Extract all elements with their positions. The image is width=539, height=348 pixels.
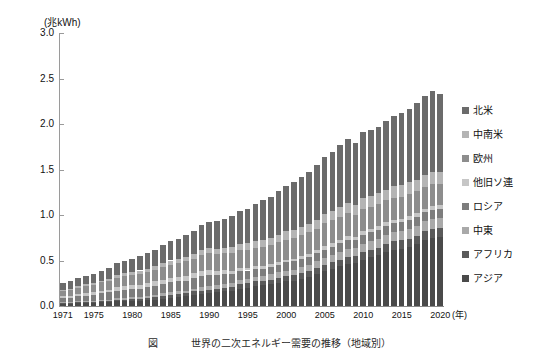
bar-segment-他旧ソ連 (299, 256, 305, 259)
y-tick-label: 2.5 (26, 74, 54, 84)
bar-segment-アジア (145, 300, 151, 306)
bar-segment-ロシア (283, 262, 289, 270)
bar-segment-他旧ソ連 (114, 287, 120, 291)
bar-segment-他旧ソ連 (222, 270, 228, 275)
bar-segment-中東 (253, 277, 259, 282)
legend-item-6[interactable]: アフリカ (462, 242, 538, 266)
bar-segment-他旧ソ連 (345, 236, 351, 240)
bar-segment-中南米 (206, 248, 212, 253)
legend-item-5[interactable]: 中東 (462, 218, 538, 242)
x-tick-label: 1990 (192, 310, 226, 320)
bar-segment-他旧ソ連 (168, 278, 174, 283)
bar-segment-中南米 (306, 224, 312, 232)
legend-label: アジア (473, 273, 503, 284)
bar-segment-欧州 (137, 274, 143, 285)
legend-swatch-icon (462, 179, 469, 186)
bar-segment-中南米 (399, 185, 405, 197)
bar-segment-他旧ソ連 (368, 229, 374, 233)
bar-segment-中南米 (330, 211, 336, 220)
x-axis-line (59, 306, 444, 307)
bar-segment-北米 (268, 197, 274, 238)
bar-segment-ロシア (222, 274, 228, 284)
bar-2005 (322, 33, 328, 306)
bar-segment-中南米 (168, 261, 174, 266)
x-tick-label: 2010 (346, 310, 380, 320)
legend-item-2[interactable]: 欧州 (462, 146, 538, 170)
bar-segment-北米 (306, 172, 312, 224)
bar-segment-アフリカ (253, 281, 259, 286)
bar-segment-中東 (306, 265, 312, 271)
bar-segment-アジア (60, 304, 66, 306)
bar-segment-中南米 (376, 193, 382, 204)
bar-segment-他旧ソ連 (83, 293, 89, 296)
bar-segment-ロシア (407, 220, 413, 229)
bar-segment-北米 (191, 231, 197, 254)
bar-segment-中東 (206, 286, 212, 290)
bar-segment-中南米 (337, 207, 343, 217)
bar-segment-中南米 (268, 238, 274, 245)
bar-segment-中南米 (99, 281, 105, 283)
bar-segment-他旧ソ連 (383, 222, 389, 226)
bar-segment-他旧ソ連 (360, 231, 366, 235)
bar-segment-アフリカ (283, 276, 289, 281)
bar-segment-アフリカ (299, 273, 305, 278)
bar-segment-アフリカ (145, 298, 151, 300)
legend-swatch-icon (462, 203, 469, 210)
bar-segment-他旧ソ連 (145, 283, 151, 287)
bar-segment-アフリカ (168, 295, 174, 298)
bar-segment-中南米 (253, 241, 259, 247)
bar-segment-欧州 (122, 276, 128, 286)
bar-segment-アフリカ (383, 244, 389, 252)
bar-segment-アジア (206, 293, 212, 306)
bar-segment-ロシア (437, 209, 443, 218)
bar-segment-中東 (437, 218, 443, 228)
bar-segment-他旧ソ連 (137, 285, 143, 289)
bar-segment-アフリカ (291, 275, 297, 280)
bar-segment-アジア (291, 281, 297, 306)
bar-segment-北米 (376, 127, 382, 193)
bar-segment-アジア (353, 263, 359, 306)
bar-segment-アフリカ (229, 287, 235, 291)
bar-segment-北米 (322, 157, 328, 214)
bar-segment-アジア (245, 288, 251, 306)
bar-segment-アジア (306, 277, 312, 306)
bar-segment-ロシア (391, 223, 397, 232)
bar-segment-北米 (330, 152, 336, 211)
bar-segment-他旧ソ連 (407, 216, 413, 220)
legend-item-7[interactable]: アジア (462, 266, 538, 290)
bar-segment-アジア (199, 294, 205, 306)
bar-segment-アフリカ (314, 268, 320, 274)
bar-segment-アジア (137, 301, 143, 306)
bar-segment-ロシア (152, 286, 158, 295)
bar-segment-中南米 (407, 182, 413, 194)
bar-segment-欧州 (407, 194, 413, 216)
bar-segment-欧州 (229, 253, 235, 270)
bar-segment-北米 (291, 182, 297, 229)
bar-segment-中南米 (91, 283, 97, 285)
bar-segment-アジア (253, 286, 259, 306)
bar-segment-アジア (437, 237, 443, 306)
bar-segment-欧州 (160, 267, 166, 280)
legend-item-1[interactable]: 中南米 (462, 122, 538, 146)
legend-item-0[interactable]: 北米 (462, 98, 538, 122)
bar-segment-中南米 (283, 231, 289, 239)
bar-1987 (183, 33, 189, 306)
bar-segment-中東 (422, 221, 428, 231)
bar-1977 (106, 33, 112, 306)
bar-segment-中東 (268, 274, 274, 279)
bar-segment-他旧ソ連 (229, 271, 235, 275)
bar-segment-中東 (75, 301, 81, 302)
bar-segment-北米 (399, 113, 405, 185)
bar-segment-他旧ソ連 (75, 294, 81, 296)
bar-segment-中南米 (160, 263, 166, 267)
bar-segment-アフリカ (422, 231, 428, 240)
bar-segment-北米 (75, 278, 81, 286)
bar-segment-北米 (368, 130, 374, 196)
bar-segment-中南米 (176, 259, 182, 264)
legend-item-4[interactable]: ロシア (462, 194, 538, 218)
bar-segment-他旧ソ連 (176, 277, 182, 282)
legend-label: ロシア (473, 201, 503, 212)
bar-1995 (245, 33, 251, 306)
legend-label: 他旧ソ連 (473, 177, 513, 188)
legend-item-3[interactable]: 他旧ソ連 (462, 170, 538, 194)
